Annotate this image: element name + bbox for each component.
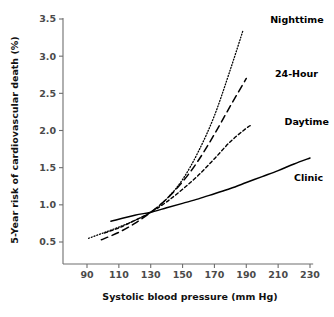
- x-tick-label: 210: [268, 269, 288, 280]
- y-axis-title: 5-Year risk of cardiovascular death (%): [9, 36, 20, 243]
- y-tick-label: 3.0: [39, 51, 56, 62]
- x-axis-ticks: 90110130150170190210230: [80, 264, 320, 280]
- series-curve-nighttime: [89, 30, 244, 238]
- y-tick-label: 3.5: [39, 13, 56, 24]
- y-tick-label: 2.0: [39, 125, 56, 136]
- data-series-group: [89, 30, 310, 240]
- series-label-daytime: Daytime: [285, 116, 329, 127]
- risk-curve-chart: 0.51.01.52.02.53.03.5 901101301501701902…: [0, 0, 334, 317]
- x-axis-title: Systolic blood pressure (mm Hg): [102, 291, 277, 302]
- x-tick-label: 170: [205, 269, 225, 280]
- x-tick-label: 190: [236, 269, 256, 280]
- y-axis-ticks: 0.51.01.52.02.53.03.5: [39, 13, 63, 247]
- y-tick-label: 2.5: [39, 88, 56, 99]
- y-tick-label: 1.5: [39, 162, 56, 173]
- series-label-clinic: Clinic: [294, 172, 323, 183]
- y-tick-label: 0.5: [39, 236, 56, 247]
- chart-figure: 0.51.01.52.02.53.03.5 901101301501701902…: [0, 0, 334, 317]
- series-label-group: Nighttime24-HourDaytimeClinic: [270, 14, 329, 183]
- x-tick-label: 90: [80, 269, 94, 280]
- series-curve-clinic: [111, 158, 310, 221]
- y-tick-label: 1.0: [39, 199, 56, 210]
- x-tick-label: 150: [173, 269, 193, 280]
- series-curve-24-hour: [101, 78, 246, 239]
- series-label-24-hour: 24-Hour: [275, 68, 318, 79]
- series-label-nighttime: Nighttime: [270, 14, 323, 25]
- x-tick-label: 130: [141, 269, 161, 280]
- x-tick-label: 230: [300, 269, 320, 280]
- x-tick-label: 110: [109, 269, 129, 280]
- plot-axes: 0.51.01.52.02.53.03.5 901101301501701902…: [39, 13, 320, 280]
